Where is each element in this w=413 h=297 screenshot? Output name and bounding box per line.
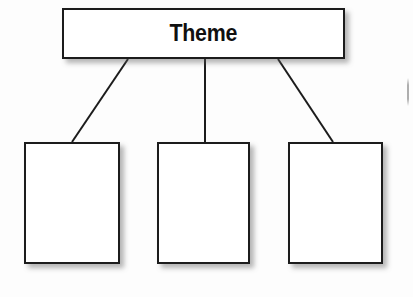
connector-root-to-child-3	[278, 59, 333, 142]
child-node-3[interactable]	[288, 142, 383, 264]
child-node-2-label	[159, 144, 248, 262]
theme-root-node[interactable]: Theme	[62, 8, 345, 59]
connector-root-to-child-1	[72, 59, 128, 142]
child-node-1-label	[26, 144, 118, 262]
page-edge-artifact	[407, 78, 409, 106]
theme-root-node-label: Theme	[170, 22, 238, 45]
child-node-3-label	[290, 144, 381, 262]
child-node-2[interactable]	[157, 142, 250, 264]
child-node-1[interactable]	[24, 142, 120, 264]
theme-hierarchy-diagram: Theme	[0, 0, 413, 297]
